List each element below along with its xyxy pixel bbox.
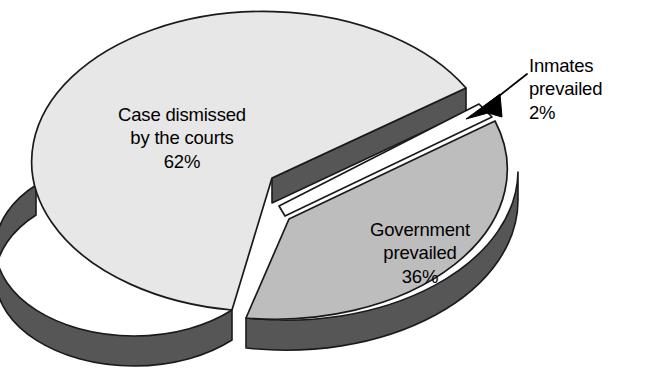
slice-label-government-prevailed-line1: Government <box>330 218 510 241</box>
pie-chart: Case dismissed by the courts 62% Governm… <box>0 0 664 385</box>
slice-label-case-dismissed-line2: by the courts <box>72 126 292 149</box>
inmates-callout-leader <box>466 74 527 119</box>
slice-label-case-dismissed-value: 62% <box>72 150 292 173</box>
slice-label-inmates-prevailed: Inmates prevailed 2% <box>529 54 659 124</box>
slice-label-government-prevailed-line2: prevailed <box>330 241 510 264</box>
slice-label-case-dismissed-line1: Case dismissed <box>72 103 292 126</box>
slice-label-government-prevailed: Government prevailed 36% <box>330 218 510 288</box>
slice-label-inmates-prevailed-value: 2% <box>529 101 659 124</box>
slice-label-inmates-prevailed-line1: Inmates <box>529 54 659 77</box>
slice-label-case-dismissed: Case dismissed by the courts 62% <box>72 103 292 173</box>
slice-label-inmates-prevailed-line2: prevailed <box>529 77 659 100</box>
slice-label-government-prevailed-value: 36% <box>330 265 510 288</box>
